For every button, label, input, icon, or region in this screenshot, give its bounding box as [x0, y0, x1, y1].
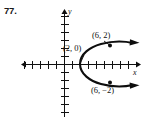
- coordinate-graph: x y: [0, 0, 145, 122]
- lower-point-dot: [108, 81, 112, 85]
- parabola-upper-branch: [80, 42, 133, 64]
- point-label-lower: (6, −2): [91, 86, 114, 95]
- x-axis-label: x: [132, 68, 137, 77]
- x-axis-arrow-left: [21, 62, 26, 68]
- y-axis-group: y: [61, 7, 73, 117]
- upper-branch-arrowhead: [130, 39, 140, 45]
- parabola-lower-branch: [80, 64, 133, 86]
- lower-branch-arrowhead: [130, 82, 140, 88]
- point-label-upper: (6, 2): [92, 31, 110, 40]
- point-label-vertex: (2, 0): [63, 44, 81, 53]
- x-axis-arrow-right: [136, 62, 141, 68]
- y-axis-arrow-up: [62, 9, 68, 14]
- y-axis-label: y: [67, 7, 72, 16]
- figure-container: 77. x: [0, 0, 145, 122]
